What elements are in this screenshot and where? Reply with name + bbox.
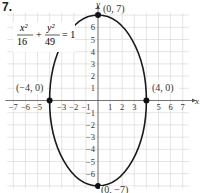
svg-text:−2: −2: [69, 102, 78, 112]
equation-y-denominator: 49: [45, 36, 55, 47]
vertex-point: [95, 12, 101, 18]
point-label-right: (4, 0): [152, 82, 174, 94]
vertex-point: [143, 98, 149, 104]
equation-y-numerator: y²: [46, 22, 55, 33]
equation-label: x² 16 + y² 49 = 1: [13, 22, 75, 52]
svg-text:−6: −6: [21, 102, 30, 112]
point-label-top: (0, 7): [103, 3, 125, 15]
equation-plus: +: [36, 29, 42, 40]
svg-text:−5: −5: [33, 102, 42, 112]
svg-text:7: 7: [181, 102, 185, 112]
svg-text:2: 2: [91, 71, 95, 81]
equation-x-denominator: 16: [17, 36, 27, 47]
svg-text:−3: −3: [57, 102, 66, 112]
svg-text:2: 2: [120, 102, 124, 112]
svg-text:6: 6: [168, 102, 172, 112]
y-axis-label: y: [95, 0, 100, 9]
svg-text:−6: −6: [86, 169, 95, 179]
svg-text:−3: −3: [86, 132, 95, 142]
svg-text:−5: −5: [86, 157, 95, 167]
equation-equals: = 1: [62, 29, 75, 40]
svg-text:−1: −1: [86, 108, 95, 118]
svg-text:3: 3: [132, 102, 136, 112]
svg-text:5: 5: [91, 35, 95, 45]
equation-x-numerator: x²: [19, 22, 28, 33]
svg-text:−7: −7: [9, 102, 18, 112]
svg-text:−2: −2: [86, 120, 95, 130]
svg-text:6: 6: [91, 22, 95, 32]
svg-text:1: 1: [91, 83, 95, 93]
svg-text:5: 5: [156, 102, 160, 112]
vertex-point: [47, 98, 53, 104]
svg-text:−4: −4: [86, 144, 96, 154]
ellipse-graph: −7−6−5−3−2−1123567654321−1−2−3−4−5−6 x² …: [0, 0, 200, 193]
x-axis-label: x: [194, 96, 199, 106]
point-label-bottom: (0, −7): [101, 184, 128, 193]
svg-text:3: 3: [91, 59, 95, 69]
point-label-left: (−4, 0): [16, 82, 43, 94]
svg-text:1: 1: [108, 102, 112, 112]
